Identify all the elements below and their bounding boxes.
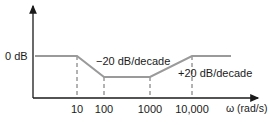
x-axis-label: ω (rad/s) [226,102,267,114]
x-tick-label: 100 [95,103,113,115]
x-tick-label: 1000 [138,103,162,115]
annotation-plus20: +20 dB/decade [178,67,252,79]
annotation-minus20: −20 dB/decade [96,55,170,67]
x-tick-label: 10,000 [175,103,209,115]
y-tick-label-0db: 0 dB [5,50,28,62]
bode-plot: 10100100010,000 0 dB −20 dB/decade +20 d… [0,0,270,125]
x-tick-label: 10 [71,103,83,115]
